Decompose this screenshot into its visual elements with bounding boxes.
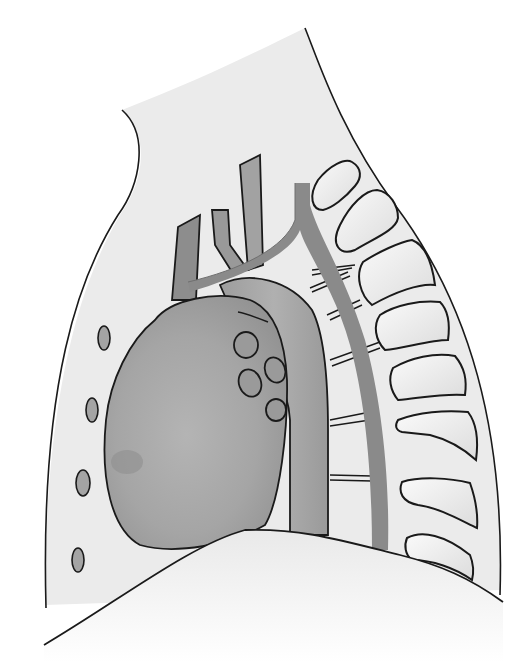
nodule-1 [98,326,110,350]
anatomical-figure [0,0,524,662]
hilar-node-4 [266,399,286,421]
nodule-3 [76,470,90,496]
nodule-4 [72,548,84,572]
hilar-node-1 [234,332,258,358]
nodule-2 [86,398,98,422]
